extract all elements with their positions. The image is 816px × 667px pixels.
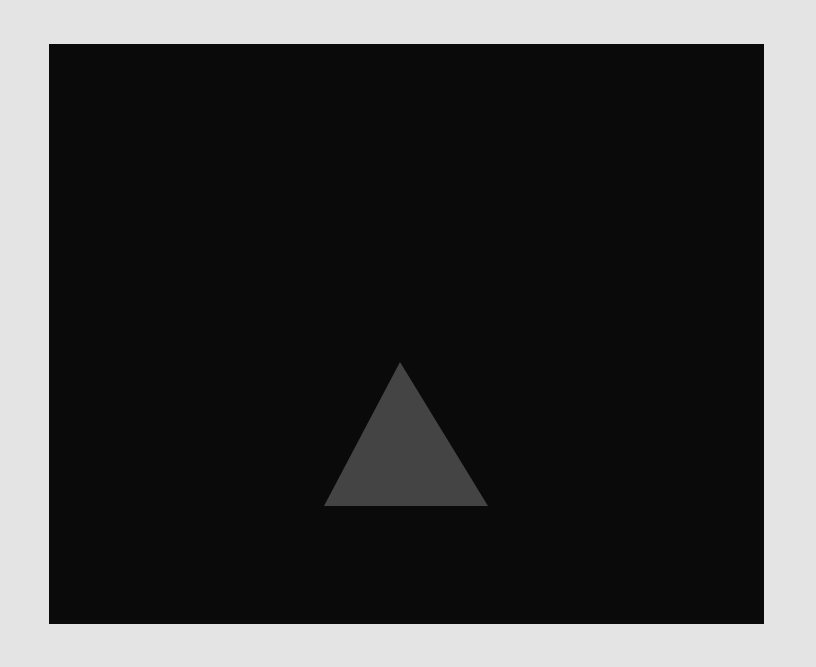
- render-canvas[interactable]: [49, 44, 764, 624]
- page-background: [0, 0, 816, 667]
- scene-svg: [49, 44, 764, 624]
- triangle-shape: [324, 362, 488, 506]
